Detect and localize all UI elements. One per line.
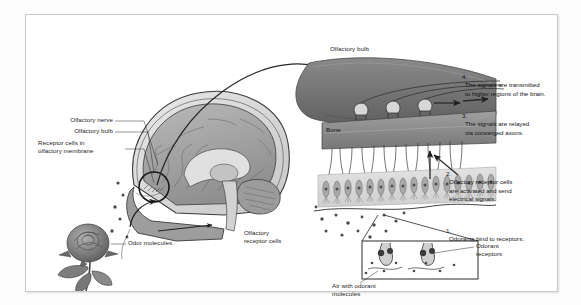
step-2: 2. Olfactory receptor cells are activate… xyxy=(446,161,512,204)
step-1-number: 1. xyxy=(446,227,451,234)
label-odorant-receptors: Odorant receptors xyxy=(476,242,502,258)
step-4-text: The signals are transmitted to higher re… xyxy=(465,81,546,98)
label-olfactory-bulb-detail: Olfactory bulb xyxy=(330,45,369,53)
label-odor-molecules: Odor molecules xyxy=(128,239,172,247)
step-1: 1. Odorants bind to receptors. xyxy=(446,218,524,244)
odorant-receptor-inset xyxy=(362,241,478,279)
step-2-number: 2. xyxy=(446,170,451,177)
figure-frame: Olfactory nerve Olfactory bulb Receptor … xyxy=(25,14,558,292)
step-1-text: Odorants bind to receptors. xyxy=(449,235,524,244)
label-olfactory-bulb-head: Olfactory bulb xyxy=(50,127,113,135)
label-olfactory-nerve: Olfactory nerve xyxy=(50,116,113,124)
step-2-text: Olfactory receptor cells are activated a… xyxy=(449,178,512,204)
label-bone: Bone xyxy=(326,126,341,134)
step-4-number: 4. xyxy=(462,73,467,80)
rose-illustration xyxy=(58,224,118,291)
label-air-with-odorant-molecules: Air with odorant molecules xyxy=(332,282,376,298)
step-3: 3. The signals are relayed via converged… xyxy=(462,103,529,137)
step-3-number: 3. xyxy=(462,112,467,119)
label-olfactory-receptor-cells: Olfactory receptor cells xyxy=(244,229,282,245)
brain-sagittal-illustration xyxy=(127,91,290,241)
label-receptor-cells-membrane: Receptor cells in olfactory membrane xyxy=(38,139,126,155)
step-4: 4. The signals are transmitted to higher… xyxy=(462,64,546,98)
figure-canvas: Olfactory nerve Olfactory bulb Receptor … xyxy=(0,0,581,305)
step-3-text: The signals are relayed via converged ax… xyxy=(465,120,529,137)
odor-molecule-dots-left xyxy=(110,181,128,238)
odor-molecule-dots-cavity xyxy=(315,206,406,239)
